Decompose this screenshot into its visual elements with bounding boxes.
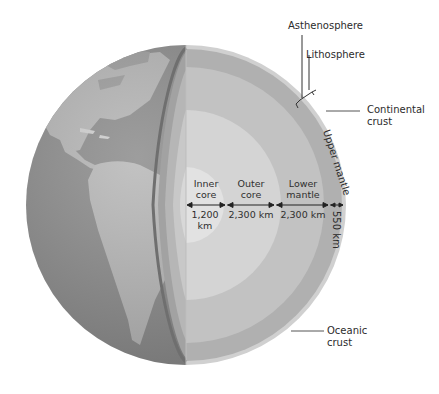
inner-core-thickness-line2: km [186,220,224,231]
outer-core-name-line1: Outer [228,178,274,189]
outer-core-name-line2: core [228,189,274,200]
continental-crust-line1: Continental [367,104,425,116]
asthenosphere-label: Asthenosphere [288,20,363,32]
oceanic-crust-line1: Oceanic [327,325,367,337]
inner-core-thickness-line1: 1,200 [186,209,224,220]
lower-mantle-name-line1: Lower [278,178,328,189]
lower-mantle-name-line2: mantle [278,189,328,200]
lower-mantle-thickness: 2,300 km [277,209,329,220]
continental-crust-label: Continental crust [367,104,425,128]
continental-crust-line2: crust [367,116,425,128]
oceanic-crust-label: Oceanic crust [327,325,367,349]
inner-core-name-line2: core [188,189,224,200]
inner-core-thickness: 1,200 km [186,209,224,231]
oceanic-crust-line2: crust [327,337,367,349]
outer-core-thickness: 2,300 km [226,209,276,220]
lower-mantle-name: Lower mantle [278,178,328,200]
outer-core-name: Outer core [228,178,274,200]
inner-core-name: Inner core [188,178,224,200]
lithosphere-label: Lithosphere [306,49,365,61]
upper-mantle-thickness: 550 km [331,211,342,249]
inner-core-name-line1: Inner [188,178,224,189]
